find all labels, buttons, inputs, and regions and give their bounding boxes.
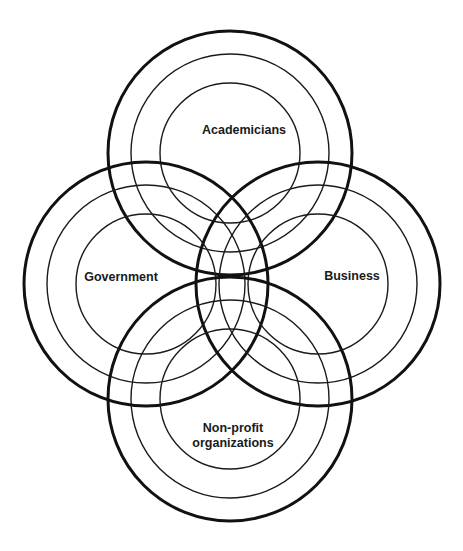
non-profit-label-line: Non-profit <box>203 421 264 435</box>
venn-diagram: AcademiciansGovernmentBusinessNon-profit… <box>0 0 463 551</box>
non-profit-outer-ring <box>108 277 352 521</box>
academicians-label-line: Academicians <box>202 123 286 137</box>
business-label-line: Business <box>324 269 380 283</box>
label-group: AcademiciansGovernmentBusinessNon-profit… <box>84 123 380 450</box>
academicians-label: Academicians <box>202 123 286 137</box>
circle-group-non-profit <box>108 277 352 521</box>
non-profit-label: Non-profitorganizations <box>192 421 273 450</box>
government-label-line: Government <box>84 270 158 284</box>
non-profit-label-line: organizations <box>192 436 273 450</box>
academicians-inner-ring <box>160 83 300 223</box>
government-label: Government <box>84 270 158 284</box>
business-label: Business <box>324 269 380 283</box>
